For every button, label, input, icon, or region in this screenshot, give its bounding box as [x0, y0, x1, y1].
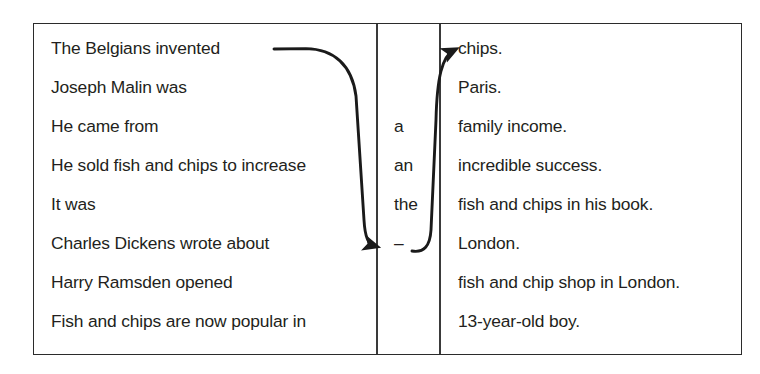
- clause-row[interactable]: Charles Dickens wrote about: [34, 224, 376, 263]
- column-articles: a an the –: [377, 24, 439, 354]
- article-row[interactable]: [377, 29, 439, 68]
- column-endings: chips. Paris. family income. incredible …: [440, 24, 741, 354]
- article-row[interactable]: –: [377, 224, 439, 263]
- clause-row[interactable]: He sold fish and chips to increase: [34, 146, 376, 185]
- clause-row[interactable]: It was: [34, 185, 376, 224]
- clause-text: He sold fish and chips to increase: [51, 156, 306, 175]
- clause-text: Harry Ramsden opened: [51, 273, 233, 292]
- article-text: –: [394, 234, 404, 253]
- article-row[interactable]: [377, 263, 439, 302]
- ending-text: Paris.: [458, 78, 502, 97]
- column-clauses: The Belgians invented Joseph Malin was H…: [34, 24, 376, 354]
- ending-row[interactable]: fish and chip shop in London.: [440, 263, 741, 302]
- clause-text: The Belgians invented: [51, 39, 220, 58]
- ending-row[interactable]: 13-year-old boy.: [440, 302, 741, 341]
- clause-row[interactable]: Harry Ramsden opened: [34, 263, 376, 302]
- ending-row[interactable]: family income.: [440, 107, 741, 146]
- ending-text: family income.: [458, 117, 567, 136]
- clause-text: It was: [51, 195, 96, 214]
- ending-text: incredible success.: [458, 156, 602, 175]
- ending-text: London.: [458, 234, 520, 253]
- clause-row[interactable]: Fish and chips are now popular in: [34, 302, 376, 341]
- article-text: the: [394, 195, 418, 214]
- clause-text: He came from: [51, 117, 158, 136]
- article-row[interactable]: a: [377, 107, 439, 146]
- clause-text: Charles Dickens wrote about: [51, 234, 269, 253]
- ending-row[interactable]: London.: [440, 224, 741, 263]
- article-row[interactable]: [377, 302, 439, 341]
- exercise-frame: The Belgians invented Joseph Malin was H…: [33, 23, 742, 355]
- ending-text: chips.: [458, 39, 503, 58]
- article-row[interactable]: the: [377, 185, 439, 224]
- clause-row[interactable]: He came from: [34, 107, 376, 146]
- ending-row[interactable]: incredible success.: [440, 146, 741, 185]
- article-row[interactable]: [377, 68, 439, 107]
- ending-text: fish and chip shop in London.: [458, 273, 680, 292]
- clause-row[interactable]: Joseph Malin was: [34, 68, 376, 107]
- ending-text: fish and chips in his book.: [458, 195, 653, 214]
- ending-row[interactable]: Paris.: [440, 68, 741, 107]
- clause-text: Joseph Malin was: [51, 78, 187, 97]
- article-text: a: [394, 117, 404, 136]
- article-row[interactable]: an: [377, 146, 439, 185]
- ending-row[interactable]: chips.: [440, 29, 741, 68]
- clause-text: Fish and chips are now popular in: [51, 312, 306, 331]
- ending-row[interactable]: fish and chips in his book.: [440, 185, 741, 224]
- ending-text: 13-year-old boy.: [458, 312, 580, 331]
- clause-row[interactable]: The Belgians invented: [34, 29, 376, 68]
- article-text: an: [394, 156, 413, 175]
